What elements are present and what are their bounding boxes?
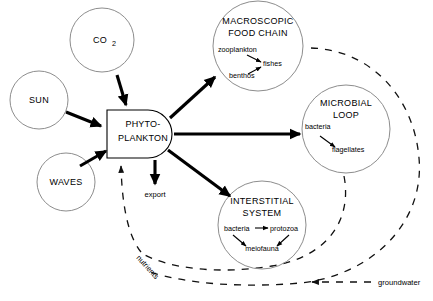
microbial-label-line2: LOOP [333, 110, 359, 120]
dashed-nutrients-uptake [121, 166, 141, 252]
arrow-protozoa-to-meiofauna [277, 235, 289, 246]
phytoplankton-flow-diagram: CO 2 SUN WAVES PHYTO- PLANKTON MACROSCOP… [0, 0, 433, 301]
node-sun[interactable]: SUN [10, 71, 68, 129]
arrow-phytoplankton-to-interstitial [168, 150, 230, 196]
arrow-sun-to-phytoplankton [66, 112, 101, 126]
node-microbial-loop[interactable]: MICROBIAL LOOP bacteria flagellates [302, 85, 390, 173]
arrow-bacteria-to-meiofauna [233, 235, 246, 246]
arrow-waves-to-phytoplankton [80, 151, 106, 166]
waves-label: WAVES [49, 177, 82, 187]
groundwater-label: groundwater [378, 278, 421, 287]
node-interstitial-system[interactable]: INTERSTITIAL SYSTEM bacteria protozoa me… [218, 181, 306, 269]
co2-label: CO [93, 35, 107, 45]
interstitial-member-protozoa: protozoa [270, 224, 298, 233]
node-co2[interactable]: CO 2 [70, 8, 134, 72]
arrow-zooplankton-to-fishes [247, 55, 261, 62]
microbial-label-line1: MICROBIAL [320, 98, 372, 108]
macroscopic-member-zooplankton: zooplankton [218, 45, 257, 54]
flow-arrows [66, 75, 300, 196]
macroscopic-label-line2: FOOD CHAIN [228, 28, 288, 38]
interstitial-label-line2: SYSTEM [243, 208, 282, 218]
macroscopic-label-line1: MACROSCOPIC [222, 16, 294, 26]
arrow-co2-to-phytoplankton [117, 75, 126, 105]
interstitial-member-bacteria: bacteria [224, 224, 250, 233]
nutrients-label: nutrients [135, 253, 161, 281]
macroscopic-member-fishes: fishes [263, 59, 282, 68]
interstitial-label-line1: INTERSTITIAL [230, 196, 294, 206]
arrow-bacteria-to-flagellates [320, 136, 335, 147]
sun-label: SUN [29, 95, 49, 105]
phytoplankton-label-line2: PLANKTON [118, 133, 168, 143]
co2-subscript: 2 [112, 39, 116, 48]
node-macroscopic-food-chain[interactable]: MACROSCOPIC FOOD CHAIN zooplankton benth… [213, 1, 303, 91]
node-phytoplankton[interactable]: PHYTO- PLANKTON [107, 110, 172, 158]
microbial-member-flagellates: flagellates [332, 145, 365, 154]
phytoplankton-label-line1: PHYTO- [125, 119, 160, 129]
export-label: export [144, 190, 166, 199]
dashed-nutrient-loop [143, 176, 346, 270]
microbial-member-bacteria: bacteria [305, 122, 331, 131]
interstitial-member-meiofauna: meiofauna [245, 244, 279, 253]
arrow-phytoplankton-to-macroscopic [170, 77, 215, 118]
